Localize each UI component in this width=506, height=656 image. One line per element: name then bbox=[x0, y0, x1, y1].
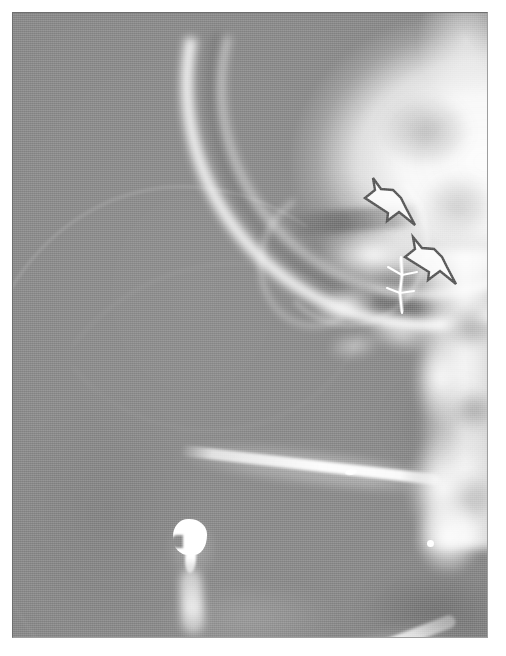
annotation-arrow-lower bbox=[403, 225, 469, 287]
alveolar-ridge bbox=[76, 637, 426, 638]
radiograph-page bbox=[0, 0, 506, 656]
radiograph-plate bbox=[12, 12, 488, 638]
annotation-arrow-upper bbox=[363, 168, 427, 228]
tooth-bone-trail bbox=[179, 568, 204, 635]
radiopaque-dot-b bbox=[427, 540, 434, 547]
tooth-restoration-notch bbox=[171, 535, 183, 548]
